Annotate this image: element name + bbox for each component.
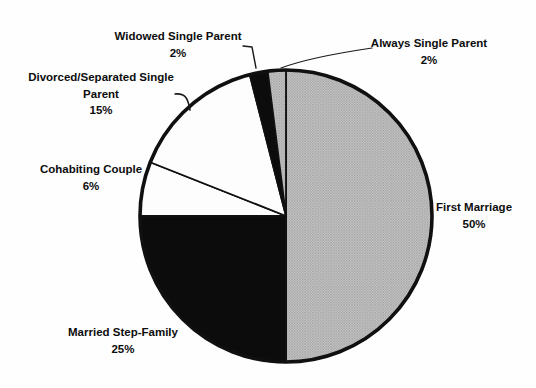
slice-label-widowed-single-parent: Widowed Single Parent 2%	[114, 28, 241, 61]
slice-label-always-single-parent: Always Single Parent 2%	[371, 35, 487, 68]
slice-label-divorced-separated: Divorced/Separated Single Parent 15%	[22, 69, 180, 119]
slice-label-divorced-pct: 15%	[22, 102, 180, 119]
slice-label-first-marriage: First Marriage 50%	[436, 199, 512, 232]
slice-label-first-marriage-pct: 50%	[436, 216, 512, 233]
slice-label-always-name: Always Single Parent	[371, 35, 487, 52]
slice-label-cohabiting-name: Cohabiting Couple	[40, 161, 142, 178]
slice-label-widowed-name: Widowed Single Parent	[114, 28, 241, 45]
slice-label-cohabiting-pct: 6%	[40, 178, 142, 195]
leader-line-widowed-single-parent	[243, 46, 256, 68]
slice-label-always-pct: 2%	[371, 52, 487, 69]
pie-slice-first-marriage	[286, 70, 432, 362]
slice-label-divorced-name: Divorced/Separated Single Parent	[22, 69, 180, 102]
leader-line-always-single-parent	[281, 48, 372, 68]
scanned-pie-chart-page: Widowed Single Parent 2% Always Single P…	[0, 0, 536, 388]
slice-label-married-name: Married Step-Family	[68, 324, 178, 341]
slice-label-first-marriage-name: First Marriage	[436, 199, 512, 216]
slice-label-widowed-pct: 2%	[114, 45, 241, 62]
slice-label-cohabiting-couple: Cohabiting Couple 6%	[40, 161, 142, 194]
slice-label-married-pct: 25%	[68, 341, 178, 358]
slice-label-married-step-family: Married Step-Family 25%	[68, 324, 178, 357]
